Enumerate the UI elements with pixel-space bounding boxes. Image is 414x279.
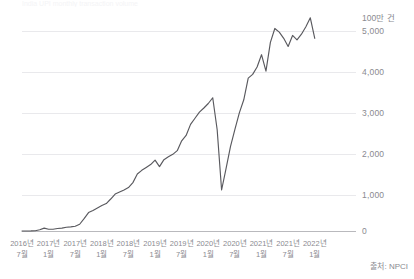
source-note: 출처: NPCI — [370, 262, 408, 272]
x-tick-year: 2022년 — [298, 238, 332, 249]
plot-area — [22, 31, 356, 232]
y-tick-3000: 3,000 — [362, 109, 384, 118]
y-tick-2000: 2,000 — [362, 150, 384, 159]
y-tick-1000: 1,000 — [362, 191, 384, 200]
upi-transaction-line-chart: India UPI monthly transaction volume 100… — [0, 0, 414, 279]
y-axis-unit-label: 100만 건 — [362, 14, 395, 23]
x-tick-2022-1: 2022년1월 — [298, 238, 332, 260]
y-tick-5000: 5,000 — [362, 27, 384, 36]
x-tick-month: 1월 — [298, 249, 332, 260]
top-cut-off-text: India UPI monthly transaction volume — [22, 0, 322, 7]
y-tick-4000: 4,000 — [362, 68, 384, 77]
x-axis-labels: 2016년7월2017년1월2017년7월2018년1월2018년7월2019년… — [22, 238, 356, 264]
data-line-svg — [22, 31, 356, 232]
y-tick-0: 0 — [362, 227, 367, 236]
